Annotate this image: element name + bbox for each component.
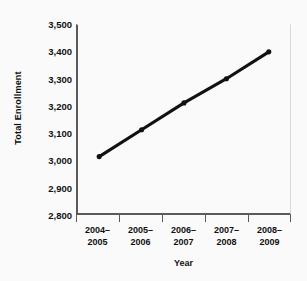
x-tick-label: 2007–2008	[214, 224, 239, 248]
x-tick-label: 2004–2005	[85, 224, 110, 248]
x-tick-mark	[248, 215, 249, 222]
x-tick-label-line-2: 2007	[171, 236, 196, 248]
x-tick-label-line-1: 2005–	[128, 225, 153, 235]
x-tick-label: 2008–2009	[257, 224, 282, 248]
x-tick-label-line-2: 2008	[214, 236, 239, 248]
x-tick-label-line-2: 2006	[128, 236, 153, 248]
data-point-marker	[224, 76, 229, 81]
x-tick-label-line-1: 2006–	[171, 225, 196, 235]
x-tick-mark	[76, 215, 77, 222]
data-point-marker	[266, 49, 271, 54]
y-tick-label: 3,100	[26, 128, 72, 139]
y-axis-tick-labels: 3,5003,4003,3003,2003,1003,0002,9002,800	[22, 0, 72, 281]
data-point-marker	[97, 154, 102, 159]
enrollment-line-chart: Total Enrollment 3,5003,4003,3003,2003,1…	[0, 0, 307, 281]
x-axis-tick-marks	[76, 215, 291, 222]
x-tick-label-line-2: 2005	[85, 236, 110, 248]
y-tick-label: 3,500	[26, 19, 72, 30]
x-axis-title: Year	[76, 258, 291, 268]
plot-area	[76, 24, 291, 215]
x-tick-label-line-1: 2007–	[214, 225, 239, 235]
series-line-and-markers	[78, 25, 290, 213]
x-tick-label-line-1: 2008–	[257, 225, 282, 235]
data-point-marker	[139, 127, 144, 132]
x-axis-tick-labels: 2004–20052005–20062006–20072007–20082008…	[76, 224, 291, 254]
data-point-marker	[181, 100, 186, 105]
x-tick-label: 2006–2007	[171, 224, 196, 248]
y-tick-label: 3,200	[26, 100, 72, 111]
x-tick-label: 2005–2006	[128, 224, 153, 248]
y-tick-label: 3,000	[26, 155, 72, 166]
x-tick-mark	[290, 215, 291, 222]
y-tick-label: 2,800	[26, 210, 72, 221]
x-tick-label-line-1: 2004–	[85, 225, 110, 235]
y-tick-label: 3,300	[26, 73, 72, 84]
y-tick-label: 3,400	[26, 46, 72, 57]
y-tick-label: 2,900	[26, 182, 72, 193]
x-tick-mark	[205, 215, 206, 222]
x-tick-mark	[162, 215, 163, 222]
x-tick-mark	[119, 215, 120, 222]
x-tick-label-line-2: 2009	[257, 236, 282, 248]
